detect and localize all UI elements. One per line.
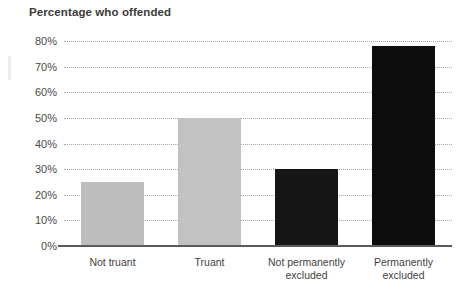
y-axis-tick-label: 70% bbox=[35, 61, 57, 73]
x-axis-tick-labels: Not truantTruantNot permanentlyexcludedP… bbox=[64, 256, 452, 300]
x-axis-line bbox=[58, 245, 452, 247]
x-axis-tick-label-line: excluded bbox=[344, 269, 464, 282]
bar-chart-figure: Percentage who offended 0%10%20%30%40%50… bbox=[0, 0, 464, 305]
bar bbox=[178, 118, 241, 246]
y-axis-tick-label: 0% bbox=[41, 240, 57, 252]
bar bbox=[275, 169, 338, 246]
y-axis-tick-label: 20% bbox=[35, 189, 57, 201]
y-axis-tick-label: 10% bbox=[35, 214, 57, 226]
y-axis-tick-label: 30% bbox=[35, 163, 57, 175]
bar bbox=[81, 182, 144, 246]
y-axis-tick-label: 50% bbox=[35, 112, 57, 124]
y-axis-tick-label: 60% bbox=[35, 86, 57, 98]
gridline bbox=[64, 41, 452, 42]
y-axis-tick-label: 40% bbox=[35, 138, 57, 150]
x-axis-tick-label: Permanentlyexcluded bbox=[344, 256, 464, 282]
y-axis-tick-label: 80% bbox=[35, 35, 57, 47]
plot-area bbox=[64, 41, 452, 246]
bar bbox=[372, 46, 435, 246]
x-axis-tick-label-line: Permanently bbox=[344, 256, 464, 269]
